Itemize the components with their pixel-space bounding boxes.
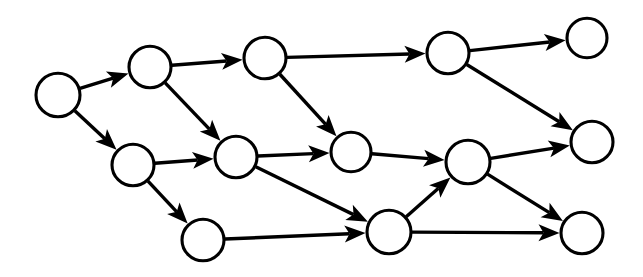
edge-n12-n9-line xyxy=(406,188,438,217)
edge-n9-n13-line xyxy=(488,174,550,212)
node-2[interactable] xyxy=(129,46,171,88)
edge-n4-n10 xyxy=(467,65,573,131)
edge-n12-n13-line xyxy=(412,232,544,233)
edge-n1-n6-line xyxy=(75,111,105,139)
edge-n7-n8 xyxy=(258,145,330,162)
edge-n9-n10 xyxy=(491,141,570,159)
directed-graph xyxy=(0,0,643,277)
edge-n4-n5 xyxy=(470,34,566,51)
edge-n2-n7 xyxy=(165,83,220,141)
edge-n3-n8-line xyxy=(280,74,326,124)
edge-n4-n5-line xyxy=(470,42,550,51)
edge-n6-n7 xyxy=(155,152,214,169)
node-layer xyxy=(36,18,613,261)
edge-n6-n11-line xyxy=(148,181,177,212)
edge-n7-n8-line xyxy=(258,154,314,156)
edge-n4-n10-line xyxy=(467,65,560,122)
edge-n1-n2-line xyxy=(80,78,113,88)
edge-n11-n12-line xyxy=(225,234,350,239)
node-1[interactable] xyxy=(36,73,80,117)
node-11[interactable] xyxy=(182,219,224,261)
edge-n3-n4 xyxy=(287,46,426,63)
edge-n3-n4-line xyxy=(287,54,410,57)
diagram-canvas xyxy=(0,0,643,277)
node-9[interactable] xyxy=(446,140,490,184)
edge-n9-n10-line xyxy=(491,148,554,158)
edge-n6-n11 xyxy=(148,181,188,223)
node-10[interactable] xyxy=(571,121,613,163)
node-5[interactable] xyxy=(567,18,607,58)
edge-n1-n2 xyxy=(80,72,128,89)
node-4[interactable] xyxy=(427,32,469,74)
edge-n1-n6 xyxy=(75,111,117,150)
edge-n4-n10-arrowhead xyxy=(551,112,573,130)
edge-n8-n9-line xyxy=(372,154,429,159)
edge-n2-n3 xyxy=(172,53,243,70)
edge-n8-n9 xyxy=(372,150,445,167)
edge-n7-n12-line xyxy=(256,167,354,215)
edge-n12-n9 xyxy=(406,178,450,217)
edge-n6-n7-line xyxy=(155,160,198,163)
edge-n7-n12 xyxy=(256,167,368,222)
edge-n9-n13 xyxy=(488,174,563,221)
node-3[interactable] xyxy=(244,37,286,79)
edge-n2-n7-line xyxy=(165,83,209,129)
node-12[interactable] xyxy=(367,210,411,254)
node-6[interactable] xyxy=(112,144,154,186)
edge-n11-n12 xyxy=(225,225,366,242)
edge-n3-n8 xyxy=(280,74,337,136)
edge-n12-n13 xyxy=(412,224,560,241)
node-13[interactable] xyxy=(561,212,603,254)
edge-n2-n3-line xyxy=(172,61,227,65)
node-7[interactable] xyxy=(215,136,257,178)
edge-n9-n13-arrowhead xyxy=(541,203,563,221)
node-8[interactable] xyxy=(331,132,371,172)
